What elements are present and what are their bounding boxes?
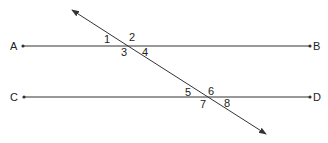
- angle-label-4: 4: [142, 46, 148, 58]
- line-cd: [22, 95, 311, 98]
- angle-label-5: 5: [185, 86, 191, 98]
- transversal-lower-ray: [128, 46, 266, 134]
- point-a-dot: [21, 44, 24, 47]
- point-d-dot: [308, 95, 311, 98]
- label-d: D: [313, 91, 321, 103]
- angle-label-7: 7: [200, 98, 206, 110]
- label-a: A: [10, 40, 18, 52]
- label-b: B: [313, 40, 320, 52]
- angle-label-6: 6: [208, 85, 214, 97]
- transversal-upper-ray: [72, 10, 128, 46]
- parallel-lines-diagram: A B C D 1 2 3 4 5 6 7 8: [0, 0, 328, 143]
- angle-label-8: 8: [224, 97, 230, 109]
- point-c-dot: [22, 95, 25, 98]
- label-c: C: [10, 91, 18, 103]
- angle-label-2: 2: [129, 31, 135, 43]
- line-ab: [21, 44, 311, 47]
- angle-label-1: 1: [104, 33, 110, 45]
- point-b-dot: [308, 44, 311, 47]
- angle-label-3: 3: [121, 46, 127, 58]
